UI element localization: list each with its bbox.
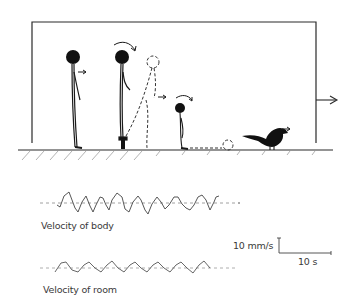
floor [18, 150, 333, 160]
swaying-adult-dashed [126, 56, 159, 148]
head [175, 103, 185, 113]
head [66, 50, 80, 64]
head [115, 50, 129, 64]
room-motion-arrow-icon [316, 96, 337, 104]
standing-adult [66, 50, 82, 148]
room-velocity-trace [40, 261, 237, 273]
arrow-right-icon [158, 95, 166, 99]
body-velocity-label: Velocity of body [41, 220, 114, 231]
arrow-right-icon [78, 70, 86, 74]
rotation-arrow-icon [176, 96, 192, 101]
scale-vertical-label: 10 mm/s [233, 240, 273, 251]
body-velocity-trace [40, 192, 240, 214]
platform [119, 137, 127, 140]
scale-bar [277, 238, 331, 255]
toddler-fallen-dashed [190, 140, 233, 150]
floor-hatching [22, 151, 315, 160]
bird [242, 128, 288, 150]
toddler [175, 103, 188, 149]
scale-horizontal-label: 10 s [298, 256, 317, 267]
rotation-arrow-icon [114, 42, 136, 51]
swaying-adult [115, 50, 130, 149]
room-velocity-label: Velocity of room [43, 284, 117, 295]
